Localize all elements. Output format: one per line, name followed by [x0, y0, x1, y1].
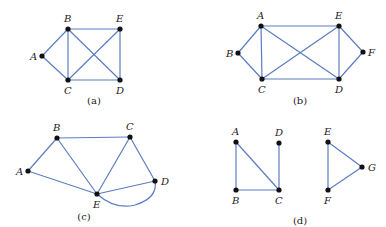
edge-c-e	[97, 137, 130, 194]
vertex-label-a: A	[15, 166, 23, 177]
caption-a: (a)	[87, 95, 101, 106]
edge-a-c	[261, 26, 262, 79]
edge-e-d	[97, 181, 155, 194]
vertex-b-dot	[233, 187, 238, 192]
vertex-label-c: C	[258, 84, 266, 95]
edge-a-c	[236, 142, 279, 190]
vertex-label-d: D	[274, 127, 283, 138]
edge-c-d	[130, 137, 155, 181]
vertex-label-a: A	[29, 51, 37, 62]
vertex-c-dot	[65, 77, 70, 82]
vertex-c-dot	[276, 187, 281, 192]
graph-b: AEBFCD(b)	[225, 10, 376, 106]
vertex-label-b: B	[52, 122, 60, 133]
vertex-a-dot	[258, 23, 263, 28]
vertex-label-g: G	[368, 162, 376, 173]
vertex-d-dot	[117, 77, 122, 82]
vertex-b-dot	[54, 135, 59, 140]
vertex-c-dot	[127, 134, 132, 139]
graph-figure: ABECD(a) AEBFCD(b) BCADE(c) ADBCEGF(d)	[0, 0, 386, 227]
edge-e-f	[339, 26, 363, 52]
edge-e-g	[328, 142, 362, 167]
vertex-label-f: F	[323, 195, 332, 206]
vertex-label-b: B	[63, 13, 71, 24]
edge-a-b	[238, 26, 261, 53]
vertex-label-a: A	[231, 126, 239, 137]
edge-f-d	[339, 52, 363, 79]
vertex-label-e: E	[115, 13, 124, 24]
vertex-label-d: D	[334, 84, 343, 95]
curved-edge-e-d	[97, 181, 155, 206]
vertex-e-dot	[325, 139, 330, 144]
vertex-label-c: C	[275, 195, 283, 206]
vertex-label-c: C	[126, 121, 134, 132]
vertex-label-d: D	[160, 176, 169, 187]
vertex-f-dot	[360, 49, 365, 54]
vertex-label-e: E	[323, 126, 332, 137]
vertex-b-dot	[65, 26, 70, 31]
vertex-a-dot	[39, 53, 44, 58]
graph-c: BCADE(c)	[15, 121, 169, 222]
edge-b-c	[57, 137, 130, 138]
vertex-label-e: E	[92, 199, 101, 210]
edge-a-c	[42, 56, 68, 80]
graph-a: ABECD(a)	[29, 13, 124, 106]
vertex-label-f: F	[367, 47, 376, 58]
edge-a-b	[28, 138, 57, 171]
edge-a-b	[42, 29, 68, 56]
vertex-d-dot	[152, 178, 157, 183]
edge-a-e	[28, 171, 97, 194]
vertex-a-dot	[233, 139, 238, 144]
graph-d: ADBCEGF(d)	[231, 126, 376, 226]
vertex-label-c: C	[64, 85, 72, 96]
caption-d: (d)	[293, 215, 307, 226]
vertex-label-d: D	[115, 85, 124, 96]
vertex-label-a: A	[256, 10, 264, 21]
edge-f-g	[328, 167, 362, 190]
vertex-e-dot	[94, 191, 99, 196]
caption-b: (b)	[293, 95, 307, 106]
vertex-label-b: B	[225, 48, 233, 59]
vertex-g-dot	[359, 164, 364, 169]
vertex-label-b: B	[231, 195, 239, 206]
vertex-c-dot	[259, 76, 264, 81]
vertex-d-dot	[276, 140, 281, 145]
caption-c: (c)	[77, 211, 91, 222]
vertex-label-e: E	[334, 10, 343, 21]
vertex-f-dot	[325, 187, 330, 192]
edge-b-e	[57, 138, 97, 194]
vertex-e-dot	[336, 23, 341, 28]
edge-b-c	[238, 53, 262, 79]
vertex-a-dot	[25, 168, 30, 173]
vertex-d-dot	[336, 76, 341, 81]
vertex-b-dot	[235, 50, 240, 55]
vertex-e-dot	[117, 26, 122, 31]
